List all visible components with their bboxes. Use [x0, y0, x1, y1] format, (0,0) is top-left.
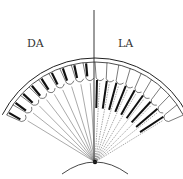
- ommatidium-base: [151, 100, 157, 106]
- ray-dashed: [95, 106, 151, 162]
- ommatidium-base: [48, 88, 55, 93]
- ray-solid: [46, 100, 95, 162]
- ommatidium-base: [116, 81, 123, 85]
- pigment-proximal: [140, 117, 163, 132]
- ray-dashed: [95, 113, 157, 162]
- pigment-proximal: [96, 80, 97, 108]
- ommatidium-base: [86, 78, 94, 81]
- ray-dashed: [95, 94, 136, 162]
- ommatidium-wall: [95, 62, 96, 78]
- ray-dashed: [95, 100, 144, 162]
- ommatidium-base: [21, 115, 26, 122]
- label-light-adapted: LA: [118, 37, 134, 50]
- ommatidium-base: [40, 93, 46, 98]
- ray-solid: [33, 113, 95, 162]
- ommatidia-fan-diagram: DA LA: [0, 0, 183, 179]
- pigment-proximal: [103, 81, 107, 109]
- ray-solid: [39, 106, 95, 162]
- ommatidium-wall: [151, 87, 161, 100]
- ommatidium-wall: [135, 73, 141, 88]
- ommatidium-wall: [165, 105, 177, 115]
- ommatidium-base: [57, 84, 64, 88]
- ommatidium-wall: [169, 115, 183, 121]
- ommatidium-base: [66, 81, 73, 85]
- label-dark-adapted: DA: [27, 37, 45, 50]
- ommatidium-base: [27, 107, 32, 113]
- pigment-proximal: [136, 109, 157, 127]
- ray-solid: [28, 121, 95, 162]
- ommatidium-wall: [158, 95, 169, 107]
- ommatidium-wall: [143, 80, 151, 94]
- ommatidia-fan: [2, 58, 183, 164]
- ommatidium-base: [164, 115, 169, 122]
- pigment-proximal: [132, 102, 151, 123]
- ommatidium-base: [126, 84, 133, 88]
- ray-dashed: [95, 121, 162, 162]
- pigment-distal: [86, 63, 87, 76]
- ommatidium-base: [135, 88, 142, 93]
- ommatidium-base: [143, 93, 149, 98]
- ray-solid: [63, 90, 95, 162]
- ommatidium-wall: [116, 65, 119, 81]
- pigment-distal: [63, 68, 67, 80]
- ommatidium-base: [158, 107, 163, 113]
- ommatidium-wall: [106, 63, 107, 79]
- ommatidium-base: [33, 100, 39, 106]
- ommatidium-base: [76, 79, 84, 82]
- ommatidium-wall: [126, 68, 131, 83]
